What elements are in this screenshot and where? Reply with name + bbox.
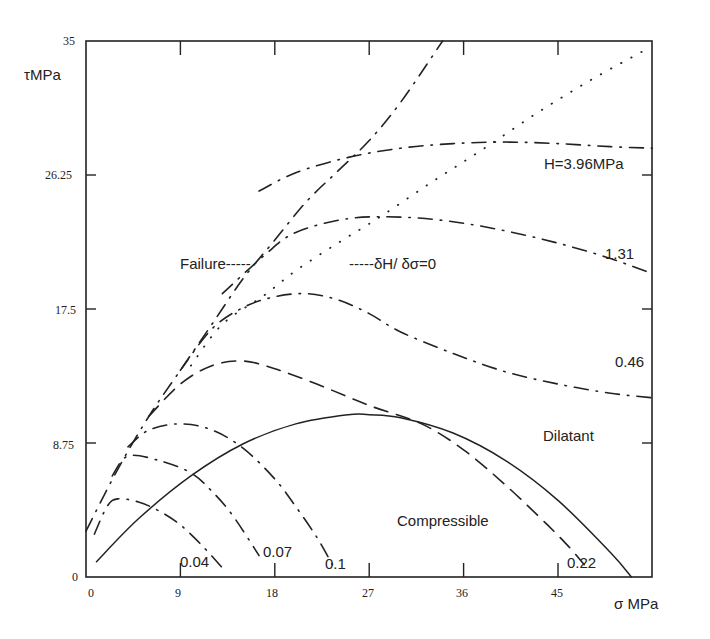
- curve-1.31: [222, 217, 652, 294]
- chart-plot: [0, 0, 710, 639]
- curve-zero-slope-locus: [191, 52, 642, 366]
- curve-Failure: [86, 41, 443, 531]
- y-tick-17.5: 17.5: [55, 303, 76, 318]
- curve-0.46: [180, 294, 652, 398]
- curve-label-022: 0.22: [567, 554, 596, 571]
- curve-0.1: [128, 424, 333, 565]
- x-tick-45: 45: [551, 586, 563, 601]
- x-axis-title: σ MPa: [614, 595, 658, 612]
- curve-label-046: 0.46: [615, 353, 644, 370]
- curves: [86, 41, 652, 577]
- x-tick-27: 27: [362, 586, 374, 601]
- compressible-label: Compressible: [397, 512, 489, 529]
- y-tick-26.25: 26.25: [45, 168, 72, 183]
- y-axis-ticks: [86, 175, 652, 443]
- curve-label-131: 1.31: [605, 245, 634, 262]
- curve-0.07: [112, 455, 259, 555]
- failure-label: Failure-----: [180, 255, 251, 272]
- curve-0.22: [149, 361, 584, 565]
- x-tick-9: 9: [175, 586, 181, 601]
- zero-line-label: -----δH/ δσ=0: [349, 255, 436, 272]
- x-tick-18: 18: [266, 586, 278, 601]
- curve-label-004: 0.04: [180, 553, 209, 570]
- x-tick-0: 0: [88, 586, 94, 601]
- plot-frame: [86, 41, 652, 577]
- x-tick-36: 36: [456, 586, 468, 601]
- dilatant-label: Dilatant: [543, 427, 594, 444]
- curve-label-h396: H=3.96MPa: [544, 155, 624, 172]
- curve-label-01: 0.1: [325, 555, 346, 572]
- y-tick-35: 35: [63, 34, 75, 49]
- x-axis-ticks: [180, 41, 558, 577]
- y-tick-0: 0: [72, 570, 78, 585]
- y-axis-title: τMPa: [24, 66, 61, 83]
- curve-label-007: 0.07: [263, 543, 292, 560]
- y-tick-8.75: 8.75: [53, 438, 74, 453]
